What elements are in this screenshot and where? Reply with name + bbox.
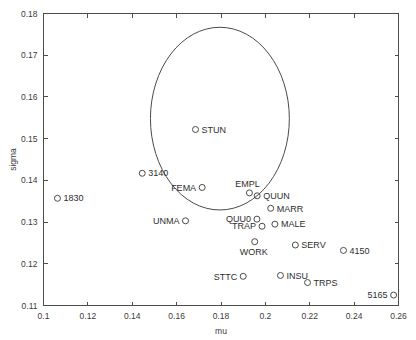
point-marker — [259, 223, 265, 229]
point-label: MARR — [277, 204, 304, 214]
point-marker — [272, 221, 278, 227]
data-point: INSU — [277, 271, 308, 281]
x-tick-label: 0.18 — [213, 311, 230, 321]
x-tick-label: 0.26 — [390, 311, 407, 321]
axis-titles: musigma — [8, 148, 227, 336]
point-label: STTC — [214, 272, 238, 282]
point-label: QUUN — [263, 191, 290, 201]
point-label: EMPL — [235, 179, 260, 189]
data-point: 1830 — [54, 193, 83, 203]
data-point: FEMA — [171, 183, 205, 193]
point-label: MALE — [281, 219, 306, 229]
point-label: 3140 — [148, 168, 168, 178]
point-label: 5165 — [368, 290, 388, 300]
data-point: STUN — [192, 125, 226, 135]
data-point: SERV — [292, 240, 325, 250]
y-tick-label: 0.18 — [21, 9, 38, 19]
point-label: TRAP — [232, 221, 256, 231]
data-point: MALE — [272, 219, 306, 229]
point-label: SERV — [301, 240, 325, 250]
x-tick-label: 0.22 — [301, 311, 318, 321]
point-label: 4150 — [349, 246, 369, 256]
data-point: 5165 — [368, 290, 397, 300]
point-label: 1830 — [63, 193, 83, 203]
point-label: TRPS — [314, 278, 338, 288]
data-points: STUN3140FEMA1830EMPLQUUNMARRUNMAQUU0TRAP… — [54, 125, 396, 301]
point-marker — [268, 205, 274, 211]
point-label: INSU — [286, 271, 308, 281]
plot-canvas: 0.10.120.140.160.180.20.220.240.26 0.110… — [0, 0, 416, 340]
y-tick-label: 0.13 — [21, 217, 38, 227]
point-marker — [54, 195, 60, 201]
data-point: STTC — [214, 272, 247, 282]
x-tick-label: 0.2 — [259, 311, 271, 321]
data-point: QUUN — [254, 191, 290, 201]
y-tick-label: 0.17 — [21, 50, 38, 60]
point-label: FEMA — [171, 183, 196, 193]
data-point: TRPS — [305, 278, 338, 288]
y-axis-ticks: 0.110.120.130.140.150.160.170.18 — [21, 9, 399, 311]
y-tick-label: 0.15 — [21, 134, 38, 144]
y-axis-title: sigma — [8, 148, 18, 171]
y-tick-label: 0.16 — [21, 92, 38, 102]
x-tick-label: 0.12 — [80, 311, 97, 321]
point-marker — [277, 272, 283, 278]
x-tick-label: 0.1 — [38, 311, 50, 321]
x-tick-label: 0.16 — [168, 311, 185, 321]
x-tick-label: 0.24 — [346, 311, 363, 321]
axis-frame — [44, 14, 399, 306]
point-marker — [340, 247, 346, 253]
point-marker — [183, 218, 189, 224]
point-label: UNMA — [153, 216, 180, 226]
data-point: MARR — [268, 204, 304, 214]
scatter-plot-figure: 0.10.120.140.160.180.20.220.240.26 0.110… — [0, 0, 416, 340]
data-point: UNMA — [153, 216, 189, 226]
point-marker — [192, 126, 198, 132]
point-marker — [240, 273, 246, 279]
point-marker — [139, 170, 145, 176]
point-marker — [246, 190, 252, 196]
point-label: STUN — [201, 125, 226, 135]
point-marker — [199, 184, 205, 190]
point-label: WORK — [240, 247, 268, 257]
y-tick-label: 0.11 — [22, 301, 38, 311]
y-tick-label: 0.14 — [21, 175, 38, 185]
data-point: WORK — [240, 239, 268, 257]
x-axis-title: mu — [215, 326, 227, 336]
plot-frame — [44, 14, 399, 306]
point-marker — [391, 292, 397, 298]
data-point: 3140 — [139, 168, 168, 178]
x-tick-label: 0.14 — [124, 311, 141, 321]
y-tick-label: 0.12 — [21, 259, 38, 269]
point-marker — [292, 242, 298, 248]
data-point: 4150 — [340, 246, 369, 256]
point-marker — [252, 239, 258, 245]
data-point: TRAP — [232, 221, 265, 231]
